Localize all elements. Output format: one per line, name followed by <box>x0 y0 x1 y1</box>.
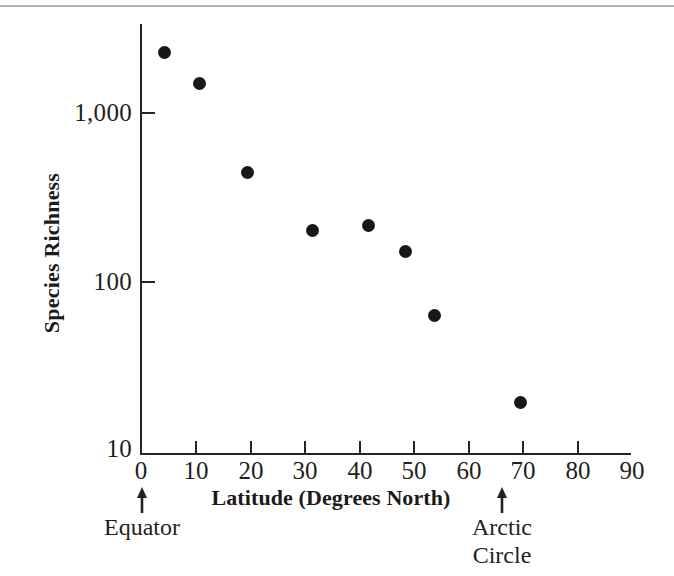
data-point <box>193 77 206 90</box>
y-tick-10 <box>142 453 155 455</box>
x-axis-title: Latitude (Degrees North) <box>176 485 486 511</box>
data-point <box>362 219 375 232</box>
annotation-arctic-circle: Arctic Circle <box>442 487 562 569</box>
x-tick-50 <box>413 441 415 454</box>
y-tick-1000 <box>142 112 155 114</box>
figure-container: 1,000 100 10 0 10 20 30 40 50 60 70 80 9… <box>0 0 674 576</box>
x-tick-label-0: 0 <box>111 458 171 484</box>
data-point <box>158 46 171 59</box>
data-point <box>514 396 527 409</box>
x-tick-60 <box>468 441 470 454</box>
up-arrow-icon <box>134 487 150 513</box>
x-tick-40 <box>359 441 361 454</box>
x-tick-label-60: 60 <box>439 458 499 484</box>
annotation-equator-label: Equator <box>82 513 202 541</box>
x-axis-line <box>140 453 631 455</box>
annotation-arctic-label-line1: Arctic <box>442 513 562 541</box>
annotation-equator: Equator <box>82 487 202 541</box>
x-tick-label-30: 30 <box>275 458 335 484</box>
data-point <box>306 224 319 237</box>
y-tick-label-100: 100 <box>94 269 132 294</box>
x-tick-label-10: 10 <box>166 458 226 484</box>
x-tick-0 <box>140 441 142 454</box>
x-tick-label-90: 90 <box>602 458 662 484</box>
x-tick-30 <box>304 441 306 454</box>
data-point <box>241 166 254 179</box>
top-divider-rule <box>0 5 674 7</box>
up-arrow-icon <box>494 487 510 513</box>
y-axis-line <box>140 24 142 455</box>
x-tick-label-50: 50 <box>384 458 444 484</box>
x-tick-label-70: 70 <box>493 458 553 484</box>
x-tick-70 <box>522 441 524 454</box>
x-tick-10 <box>195 441 197 454</box>
y-axis-title: Species Richness <box>39 143 65 363</box>
x-tick-20 <box>250 441 252 454</box>
y-tick-100 <box>142 281 155 283</box>
annotation-arctic-label-line2: Circle <box>442 541 562 569</box>
data-point <box>399 245 412 258</box>
x-tick-80 <box>577 441 579 454</box>
data-point <box>428 309 441 322</box>
x-tick-label-40: 40 <box>330 458 390 484</box>
x-tick-label-80: 80 <box>548 458 608 484</box>
x-tick-label-20: 20 <box>221 458 281 484</box>
y-tick-label-1000: 1,000 <box>74 100 132 125</box>
